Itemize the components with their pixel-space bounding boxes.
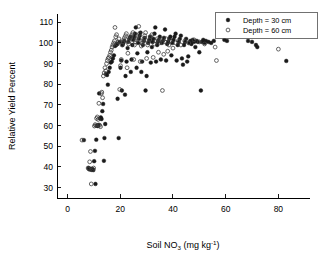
data-point	[181, 63, 185, 67]
y-tick-label: 40	[44, 162, 54, 172]
data-point	[145, 50, 149, 54]
data-point	[193, 45, 197, 49]
data-point	[225, 39, 229, 43]
data-point	[186, 54, 190, 58]
data-point	[284, 59, 288, 63]
data-point	[179, 34, 183, 38]
data-point	[112, 53, 116, 57]
data-point	[92, 159, 96, 163]
legend-marker-filled-circle-icon	[226, 18, 230, 22]
data-point	[101, 102, 105, 106]
data-point	[102, 159, 106, 163]
data-point	[116, 97, 120, 101]
scatter-plot-figure: 30405060708090100110 020406080 Relative …	[0, 0, 336, 258]
data-point	[125, 60, 129, 64]
data-point	[139, 31, 143, 35]
data-point	[124, 74, 128, 78]
legend-label-depth-30: Depth = 30 cm	[243, 16, 291, 25]
data-point	[126, 46, 130, 50]
data-point	[135, 66, 139, 70]
data-point	[103, 136, 107, 140]
data-point	[163, 28, 167, 32]
data-point	[106, 83, 110, 87]
data-point	[168, 35, 172, 39]
data-point	[149, 61, 153, 65]
data-point	[154, 60, 158, 64]
data-point	[123, 93, 127, 97]
data-point	[212, 39, 216, 43]
legend-label-depth-60: Depth = 60 cm	[243, 26, 291, 35]
x-tick-label: 80	[274, 204, 284, 214]
y-tick-label: 50	[44, 141, 54, 151]
data-point	[180, 57, 184, 61]
data-point	[117, 136, 121, 140]
y-tick-label: 110	[39, 17, 53, 27]
x-axis-title-unit-open: (mg kg	[181, 240, 211, 250]
data-point	[144, 89, 148, 93]
y-tick-label: 90	[44, 59, 54, 69]
data-point	[250, 40, 254, 44]
data-point	[108, 66, 112, 70]
y-axis-title: Relative Yield Percent	[7, 61, 17, 150]
data-point	[169, 53, 173, 57]
data-point	[139, 70, 143, 74]
x-axis-title-base: Soil NO	[147, 240, 178, 250]
x-tick-label: 40	[168, 204, 178, 214]
y-tick-label: 30	[44, 183, 54, 193]
data-point	[246, 39, 250, 43]
data-point	[174, 32, 178, 36]
x-axis-title-close: )	[217, 240, 220, 250]
x-tick-label: 0	[65, 204, 70, 214]
legend[interactable]: Depth = 30 cm Depth = 60 cm	[215, 12, 317, 38]
data-point	[197, 50, 201, 54]
data-point	[255, 45, 259, 49]
y-tick-label: 80	[44, 79, 54, 89]
data-point	[159, 58, 163, 62]
y-tick-label: 60	[44, 121, 54, 131]
x-axis-title: Soil NO3 (mg kg-1)	[147, 239, 220, 252]
data-point	[94, 138, 98, 142]
data-point	[94, 182, 98, 186]
data-point	[135, 51, 139, 55]
y-tick-label: 70	[44, 100, 54, 110]
data-point	[199, 89, 203, 93]
data-point	[93, 149, 97, 153]
data-point	[153, 26, 157, 30]
data-point	[175, 59, 179, 63]
data-point	[129, 70, 133, 74]
x-tick-label: 20	[116, 204, 126, 214]
data-point	[100, 109, 104, 113]
chart-canvas: 30405060708090100110 020406080 Relative …	[0, 0, 336, 258]
data-point	[164, 59, 168, 63]
data-point	[103, 122, 107, 126]
x-tick-label: 60	[221, 204, 231, 214]
y-tick-label: 100	[39, 38, 53, 48]
data-point	[145, 74, 149, 78]
data-point	[185, 60, 189, 64]
